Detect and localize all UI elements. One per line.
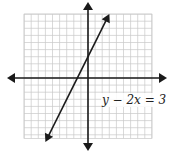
x-axis-right-arrow-icon [159, 73, 167, 83]
x-axis-left-arrow-icon [7, 73, 15, 83]
y-axis-up-arrow-icon [83, 2, 93, 10]
y-axis-down-arrow-icon [83, 143, 93, 151]
coordinate-plane [0, 0, 170, 153]
equation-label: y − 2x = 3 [101, 93, 167, 107]
